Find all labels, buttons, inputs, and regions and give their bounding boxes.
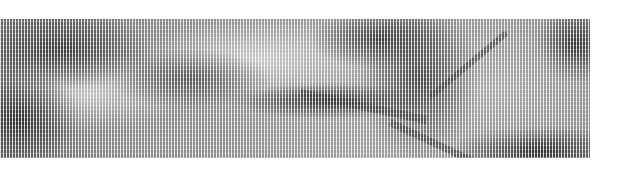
side-watermark	[606, 50, 616, 130]
dither-speckle	[0, 19, 590, 158]
dithered-photo	[0, 19, 590, 158]
